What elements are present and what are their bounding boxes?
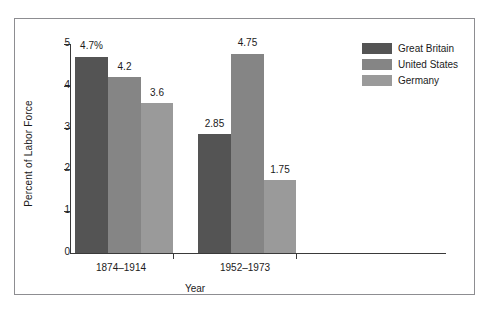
bar-chart: 5 4 3 2 1 0 Percent of Labor Force Year … bbox=[0, 0, 493, 320]
legend-swatch-great-britain bbox=[362, 43, 392, 54]
bar-value-great-britain-1952-1973: 2.85 bbox=[198, 119, 231, 129]
bar-great-britain-1874-1914 bbox=[75, 57, 108, 253]
bar-value-united-states-1952-1973: 4.75 bbox=[231, 38, 264, 48]
legend-label-germany: Germany bbox=[398, 75, 439, 86]
y-tick-label-1: 1 bbox=[48, 205, 70, 215]
y-tick-label-5: 5 bbox=[48, 38, 70, 48]
bar-united-states-1952-1973 bbox=[231, 54, 264, 253]
y-tick-label-3: 3 bbox=[48, 122, 70, 132]
y-axis-line bbox=[70, 44, 71, 254]
legend-swatch-united-states bbox=[362, 59, 392, 70]
x-tick-2 bbox=[296, 254, 297, 259]
x-axis-title: Year bbox=[70, 283, 320, 294]
y-tick-label-0: 0 bbox=[48, 247, 70, 257]
legend-item-germany: Germany bbox=[362, 73, 458, 88]
legend-swatch-germany bbox=[362, 75, 392, 86]
y-tick-label-2: 2 bbox=[48, 163, 70, 173]
bar-germany-1874-1914 bbox=[141, 103, 173, 253]
legend-label-great-britain: Great Britain bbox=[398, 43, 454, 54]
group-label-1874-1914: 1874–1914 bbox=[76, 262, 166, 273]
bar-value-germany-1952-1973: 1.75 bbox=[264, 165, 296, 175]
y-tick-label-wrap-4: 4 bbox=[36, 86, 70, 87]
legend-item-great-britain: Great Britain bbox=[362, 41, 458, 56]
legend: Great Britain United States Germany bbox=[362, 41, 458, 89]
y-tick-label-wrap-0: 0 bbox=[36, 253, 70, 254]
x-axis-line bbox=[70, 253, 446, 254]
y-tick-label-wrap-2: 2 bbox=[36, 169, 70, 170]
y-tick-label-wrap-1: 1 bbox=[36, 211, 70, 212]
legend-label-united-states: United States bbox=[398, 59, 458, 70]
x-tick-1 bbox=[173, 254, 174, 259]
legend-item-united-states: United States bbox=[362, 57, 458, 72]
bar-germany-1952-1973 bbox=[264, 180, 296, 253]
y-tick-label-wrap-5: 5 bbox=[36, 44, 70, 45]
bar-united-states-1874-1914 bbox=[108, 77, 141, 253]
bar-value-great-britain-1874-1914: 4.7% bbox=[75, 41, 108, 51]
bar-value-germany-1874-1914: 3.6 bbox=[141, 88, 173, 98]
group-label-1952-1973: 1952–1973 bbox=[200, 262, 290, 273]
y-axis-title: Percent of Labor Force bbox=[23, 64, 34, 244]
y-tick-label-wrap-3: 3 bbox=[36, 128, 70, 129]
bar-great-britain-1952-1973 bbox=[198, 134, 231, 253]
bar-value-united-states-1874-1914: 4.2 bbox=[108, 62, 141, 72]
y-tick-label-4: 4 bbox=[48, 80, 70, 90]
